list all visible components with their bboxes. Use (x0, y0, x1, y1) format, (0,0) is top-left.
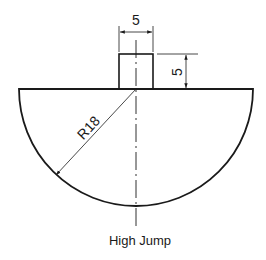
drawing-caption: High Jump (109, 233, 171, 248)
technical-drawing: 5 5 R18 High Jump (0, 0, 266, 260)
width-dimension-label: 5 (132, 12, 140, 28)
height-dimension: 5 (157, 54, 198, 88)
radius-dimension-label: R18 (74, 113, 103, 143)
radius-dimension: R18 (56, 89, 136, 175)
height-dimension-label: 5 (169, 68, 185, 76)
